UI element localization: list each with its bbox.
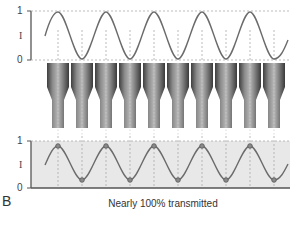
caption: Nearly 100% transmitted xyxy=(0,198,302,209)
diagram xyxy=(0,0,302,225)
top-y-tick-1: 1 xyxy=(17,5,23,16)
horn-array xyxy=(47,63,285,136)
top-y-tick-0: 0 xyxy=(17,54,23,65)
top-y-axis-label: I xyxy=(19,30,22,41)
incident-wave xyxy=(45,12,288,59)
top-plot xyxy=(27,11,290,62)
bottom-plot xyxy=(27,136,290,188)
bottom-y-tick-0: 0 xyxy=(17,182,23,193)
bottom-y-axis-label: I xyxy=(19,159,22,170)
bottom-y-tick-1: 1 xyxy=(17,135,23,146)
